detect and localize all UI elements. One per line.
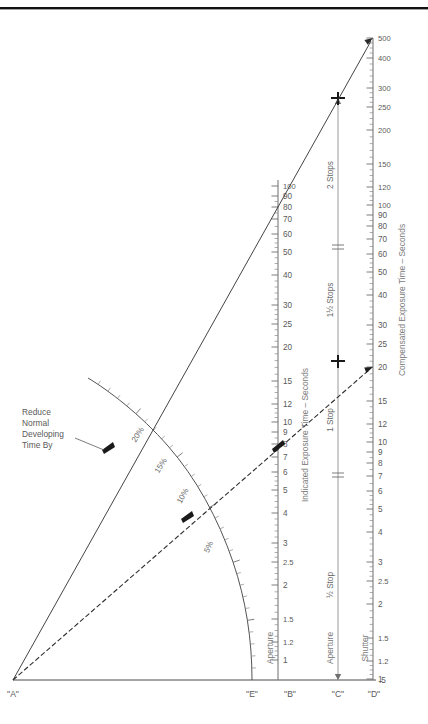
ray-2stop-arrowhead bbox=[364, 38, 373, 45]
axis-d-shutter-label: Shutter bbox=[360, 634, 370, 661]
tick-label: 2.5 bbox=[378, 577, 389, 586]
tick-label: 7 bbox=[283, 453, 288, 462]
axis-b-aperture-label: Aperture bbox=[265, 632, 275, 664]
axis-c-bottom-arrow bbox=[335, 674, 341, 680]
arc-label-10-percent: 10% bbox=[175, 487, 190, 505]
tick-label: 2 bbox=[378, 600, 383, 609]
exposure-compensation-nomograph: 10090807060504030252015121098765432.521.… bbox=[0, 0, 428, 724]
marker-c-1stop bbox=[331, 355, 345, 368]
tick-label: 4 bbox=[378, 528, 383, 537]
note-line-3: Developing bbox=[22, 429, 64, 439]
tick-label: 80 bbox=[283, 203, 293, 212]
axis-label-a: "A" bbox=[7, 689, 19, 699]
tick-label: 20 bbox=[283, 343, 293, 352]
tick-label: 7 bbox=[378, 472, 383, 481]
arc-tick bbox=[249, 632, 253, 633]
tick-label: 9 bbox=[283, 428, 288, 437]
tick-label: 10 bbox=[283, 418, 293, 427]
tick-label: 3 bbox=[283, 539, 288, 548]
tick-label: 8 bbox=[378, 459, 383, 468]
note-leader-line bbox=[75, 438, 104, 450]
tick-label: 15 bbox=[378, 397, 388, 406]
note-line-4: Time By bbox=[22, 440, 53, 450]
ray-2stop-solid bbox=[13, 41, 371, 680]
arc-tick bbox=[191, 474, 194, 476]
stop-label-2-stops: 2 Stops bbox=[326, 161, 335, 189]
axis-label-b: "B" bbox=[284, 689, 296, 699]
tick-label: 2.5 bbox=[283, 558, 294, 567]
axis-d-title: Compensated Exposure Time – Seconds bbox=[397, 224, 407, 376]
tick-label: 100 bbox=[378, 201, 391, 210]
arc-label-20-percent: 20% bbox=[130, 425, 146, 443]
tick-label: 5 bbox=[283, 486, 288, 495]
note-line-2: Normal bbox=[22, 418, 49, 428]
top-divider-rule bbox=[0, 7, 428, 9]
tick-label: 20 bbox=[378, 363, 388, 372]
tick-label: 6 bbox=[378, 487, 383, 496]
arc-label-5-percent: 5% bbox=[202, 540, 215, 554]
tick-label: 30 bbox=[283, 301, 293, 310]
arc-label-15-percent: 15% bbox=[153, 456, 169, 474]
tick-label: 60 bbox=[283, 230, 293, 239]
arc-tick bbox=[237, 572, 241, 573]
tick-label: 40 bbox=[283, 271, 293, 280]
arc-tick bbox=[170, 445, 173, 448]
arc-tick bbox=[220, 527, 224, 529]
tick-label: 70 bbox=[283, 215, 293, 224]
tick-label: 15 bbox=[283, 377, 293, 386]
arc-tick bbox=[225, 538, 229, 540]
axis-d-tick-label-half: .5 bbox=[379, 676, 386, 685]
axis-d-tick-labels: 5004003002502001501201009080706050403025… bbox=[378, 34, 391, 684]
tick-label: 9 bbox=[378, 448, 383, 457]
tick-label: 60 bbox=[378, 250, 388, 259]
arc-tick bbox=[127, 403, 130, 406]
axis-b-tick-labels: 10090807060504030252015121098765432.521.… bbox=[283, 182, 296, 665]
tick-label: 90 bbox=[378, 211, 388, 220]
tick-label: 12 bbox=[283, 400, 293, 409]
tick-label: 80 bbox=[378, 222, 388, 231]
arc-tick bbox=[215, 516, 219, 518]
stop-label-1-stop: 1 Stop bbox=[326, 408, 335, 432]
tick-label: 90 bbox=[283, 192, 293, 201]
note-line-1: Reduce bbox=[22, 407, 51, 417]
arc-tick bbox=[108, 388, 110, 391]
arc-tick bbox=[145, 419, 148, 422]
tick-label: 150 bbox=[378, 160, 391, 169]
marker-c-2stops bbox=[331, 92, 345, 105]
axis-label-e: "E" bbox=[246, 689, 258, 699]
tick-label: 250 bbox=[378, 103, 391, 112]
tick-label: 70 bbox=[378, 235, 388, 244]
arc-tick bbox=[243, 596, 247, 597]
marker-e-10-percent bbox=[181, 511, 194, 523]
tick-label: 1.2 bbox=[378, 657, 389, 666]
axis-e-ticks bbox=[98, 381, 256, 668]
tick-label: 1.5 bbox=[283, 615, 294, 624]
arc-tick bbox=[204, 495, 208, 497]
axis-b-ticks bbox=[272, 186, 279, 660]
stop-label-half-stop: ½ Stop bbox=[326, 572, 335, 598]
tick-label: 12 bbox=[378, 420, 388, 429]
tick-label: 1 bbox=[283, 656, 288, 665]
tick-label: 200 bbox=[378, 126, 391, 135]
arc-tick bbox=[162, 436, 165, 439]
tick-label: 10 bbox=[378, 438, 388, 447]
axis-label-c: "C" bbox=[332, 689, 344, 699]
axis-b-title: Indicated Exposure Time – Seconds bbox=[300, 368, 310, 502]
tick-label: 1.5 bbox=[378, 634, 389, 643]
tick-label: 50 bbox=[378, 268, 388, 277]
tick-label: 120 bbox=[378, 183, 391, 192]
tick-label: 500 bbox=[378, 34, 391, 43]
tick-label: 25 bbox=[283, 320, 293, 329]
ray-1stop-arrowhead bbox=[364, 367, 373, 373]
arc-tick bbox=[117, 395, 120, 398]
tick-label: 4 bbox=[283, 509, 288, 518]
tick-label: 3 bbox=[378, 558, 383, 567]
tick-label: 30 bbox=[378, 321, 388, 330]
arc-tick bbox=[98, 381, 100, 384]
ray-1stop-dashed bbox=[13, 370, 369, 680]
axis-d-ticks bbox=[367, 38, 374, 679]
marker-e-20-percent bbox=[102, 442, 115, 454]
tick-label: 40 bbox=[378, 291, 388, 300]
tick-label: 400 bbox=[378, 54, 391, 63]
arc-tick bbox=[233, 560, 240, 562]
